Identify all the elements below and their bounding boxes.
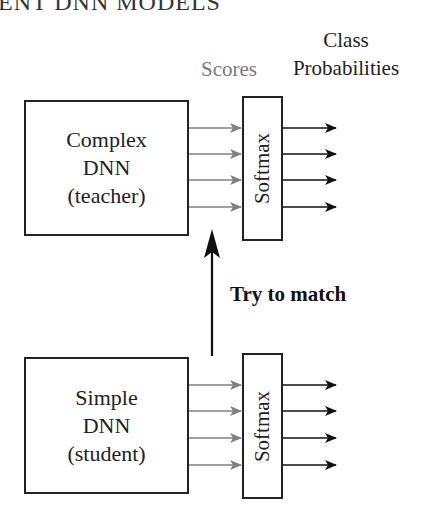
student-output-arrows xyxy=(283,385,336,465)
student-score-arrows xyxy=(189,385,241,465)
match-arrow-icon xyxy=(204,229,220,356)
teacher-output-arrows xyxy=(283,128,336,207)
teacher-score-arrows xyxy=(189,128,241,207)
arrows-layer xyxy=(0,0,436,518)
